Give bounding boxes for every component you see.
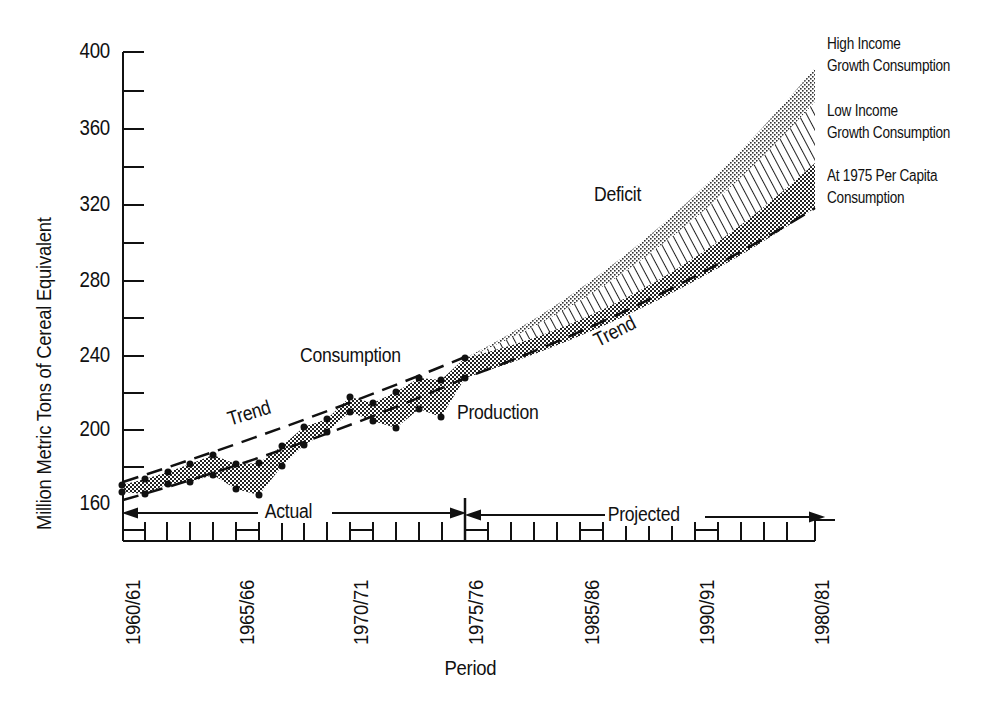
y-tick-320: 320: [59, 191, 110, 217]
y-tick-240: 240: [59, 342, 110, 368]
x-tick-1970-71: 1970/71: [349, 580, 373, 645]
y-axis-label: Million Metric Tons of Cereal Equivalent: [32, 217, 56, 530]
consumption-label: Consumption: [300, 344, 401, 367]
actual-label: Actual: [263, 500, 314, 523]
y-tick-400: 400: [59, 38, 110, 64]
low-income-label: Low Income Growth Consumption: [827, 100, 950, 144]
x-tick-1980-81: 1980/81: [810, 580, 834, 645]
x-tick-1985-86: 1985/86: [580, 580, 604, 645]
x-tick-1965-66: 1965/66: [235, 580, 259, 645]
y-tick-360: 360: [59, 115, 110, 141]
y-axis: [123, 52, 144, 541]
x-tick-1975-76: 1975/76: [464, 580, 488, 645]
high-income-label: High Income Growth Consumption: [827, 33, 950, 77]
high-income-line2: Growth Consumption: [827, 55, 950, 77]
low-income-line2: Growth Consumption: [827, 122, 950, 144]
projected-label: Projected: [606, 503, 682, 526]
per-capita-line2: Consumption: [827, 187, 937, 209]
consumption-points: [119, 355, 469, 489]
production-label: Production: [457, 401, 539, 424]
period-arrows: [125, 509, 822, 521]
y-tick-280: 280: [59, 267, 110, 293]
deficit-label: Deficit: [594, 183, 641, 206]
x-tick-1990-91: 1990/91: [695, 580, 719, 645]
y-tick-200: 200: [59, 416, 110, 442]
high-income-line1: High Income: [827, 33, 950, 55]
y-tick-160: 160: [59, 490, 110, 516]
per-capita-label: At 1975 Per Capita Consumption: [827, 165, 937, 209]
low-income-line1: Low Income: [827, 100, 950, 122]
per-capita-line1: At 1975 Per Capita: [827, 165, 937, 187]
deficit-bands: [465, 68, 815, 378]
x-tick-1960-61: 1960/61: [121, 580, 145, 645]
x-axis-label: Period: [445, 656, 497, 680]
